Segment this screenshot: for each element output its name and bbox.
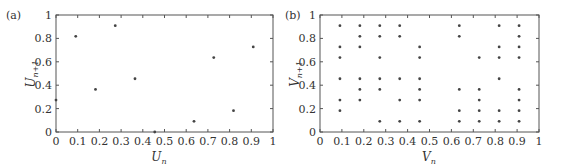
plot-frame — [320, 15, 539, 132]
data-point — [518, 120, 521, 123]
y-tick-label: 0.8 — [299, 32, 317, 45]
x-tick-label: 0.4 — [134, 135, 152, 148]
y-tick-label: 0.2 — [35, 103, 53, 116]
data-point — [378, 24, 381, 27]
x-tick-label: 0.3 — [112, 135, 130, 148]
data-point — [498, 109, 501, 112]
data-point — [358, 24, 361, 27]
data-point — [358, 88, 361, 91]
data-point — [498, 120, 501, 123]
data-point — [458, 109, 461, 112]
x-tick-label: 0.1 — [69, 135, 87, 148]
y-axis-label-a: Un+1 — [24, 60, 40, 87]
data-point — [458, 120, 461, 123]
data-point — [339, 24, 342, 27]
data-point — [55, 99, 58, 102]
x-tick-label: 0 — [317, 135, 324, 148]
panel-a: (a) 00.10.20.30.40.50.60.70.80.9100.20.4… — [0, 0, 282, 168]
x-axis-label-a: Un — [151, 150, 166, 166]
data-point — [418, 88, 421, 91]
x-tick-label: 0.7 — [199, 135, 217, 148]
x-tick-label: 0.3 — [377, 135, 395, 148]
data-point — [518, 88, 521, 91]
x-tick-label: 0.6 — [443, 135, 461, 148]
panel-label-b: (b) — [285, 9, 301, 22]
data-point — [193, 120, 196, 123]
data-point — [498, 24, 501, 27]
data-point — [418, 56, 421, 59]
y-tick-label: 1 — [309, 9, 316, 22]
data-point — [518, 99, 521, 102]
data-point — [418, 120, 421, 123]
data-point — [418, 77, 421, 80]
x-tick-label: 0.9 — [508, 135, 525, 148]
y-axis-label-b: Vn+1 — [288, 61, 304, 87]
data-point — [518, 109, 521, 112]
data-point — [339, 77, 342, 80]
y-tick-label: 1 — [45, 9, 52, 22]
data-point — [339, 46, 342, 49]
data-point — [252, 46, 255, 49]
x-tick-label: 0 — [53, 135, 60, 148]
x-axis-label-b: Vn — [422, 150, 436, 166]
y-tick-label: 0 — [45, 126, 52, 139]
data-point — [478, 56, 481, 59]
data-point — [339, 56, 342, 59]
data-point — [339, 109, 342, 112]
x-tick-label: 0.8 — [221, 135, 239, 148]
data-point — [398, 120, 401, 123]
data-point — [458, 35, 461, 38]
x-tick-label: 0.8 — [486, 135, 504, 148]
x-tick-label: 0.5 — [156, 135, 174, 148]
data-point — [498, 46, 501, 49]
data-point — [478, 109, 481, 112]
data-point — [458, 88, 461, 91]
y-tick-label: 0.8 — [35, 32, 53, 45]
panel-b: (b) 00.10.20.30.40.50.60.70.80.9100.20.4… — [282, 0, 565, 168]
x-tick-label: 0.5 — [421, 135, 439, 148]
data-point — [358, 99, 361, 102]
x-tick-label: 0.2 — [355, 135, 373, 148]
panel-label-a: (a) — [6, 9, 21, 22]
data-point — [478, 88, 481, 91]
data-point — [418, 99, 421, 102]
y-tick-label: 0.2 — [299, 103, 317, 116]
data-point — [134, 77, 137, 80]
x-tick-label: 1 — [270, 135, 277, 148]
data-point — [339, 99, 342, 102]
data-point — [478, 120, 481, 123]
data-point — [498, 77, 501, 80]
x-tick-label: 0.4 — [399, 135, 417, 148]
data-point — [114, 24, 117, 27]
x-tick-label: 0.2 — [91, 135, 109, 148]
data-point — [378, 77, 381, 80]
data-point — [378, 88, 381, 91]
data-point — [398, 99, 401, 102]
data-point — [518, 46, 521, 49]
x-tick-label: 1 — [536, 135, 543, 148]
data-point — [212, 56, 215, 59]
y-tick-label: 0 — [309, 126, 316, 139]
data-point — [418, 46, 421, 49]
plot-frame — [56, 15, 273, 132]
data-point — [398, 35, 401, 38]
data-point — [358, 35, 361, 38]
data-point — [518, 24, 521, 27]
x-tick-label: 0.6 — [177, 135, 195, 148]
data-point — [378, 120, 381, 123]
data-point — [378, 35, 381, 38]
data-point — [518, 56, 521, 59]
data-point — [518, 35, 521, 38]
data-point — [74, 35, 77, 38]
scatter-plot-b: (b) 00.10.20.30.40.50.60.70.80.9100.20.4… — [282, 0, 565, 168]
scatter-plot-a: (a) 00.10.20.30.40.50.60.70.80.9100.20.4… — [0, 0, 282, 168]
data-point — [358, 46, 361, 49]
x-tick-label: 0.7 — [465, 135, 483, 148]
x-tick-label: 0.1 — [333, 135, 351, 148]
data-point — [232, 109, 235, 112]
data-point — [478, 99, 481, 102]
data-point — [153, 131, 156, 134]
data-point — [398, 24, 401, 27]
data-point — [498, 56, 501, 59]
data-point — [94, 88, 97, 91]
